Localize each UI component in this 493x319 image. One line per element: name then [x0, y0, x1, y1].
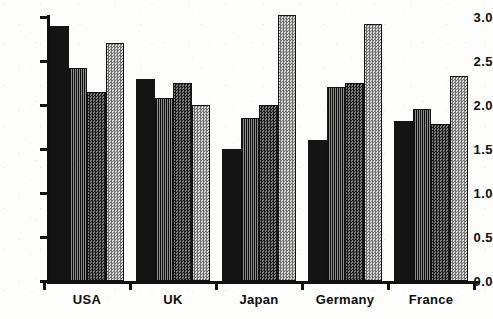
x-axis-tick [129, 281, 132, 290]
bar-usa-series-2 [69, 68, 88, 281]
bar-france-series-1 [394, 121, 413, 281]
y-axis-tick-label: 0.5 [459, 231, 493, 244]
y-axis-tick-label: 0.0 [459, 275, 493, 288]
y-axis-tick [40, 60, 49, 63]
y-axis-tick [40, 16, 49, 19]
y-axis-tick [40, 104, 49, 107]
plot-area [0, 0, 493, 319]
bar-japan-series-2 [241, 118, 260, 281]
bar-japan-series-1 [222, 149, 241, 281]
bar-uk-series-3 [173, 83, 192, 281]
bar-uk-series-4 [192, 105, 211, 281]
x-axis-group-label-usa: USA [40, 293, 134, 306]
x-axis-tick [387, 281, 390, 290]
x-axis-tick [473, 281, 476, 290]
bar-chart: 0.00.51.01.52.02.53.0 USAUKJapanGermanyF… [0, 0, 493, 319]
bar-group-uk [136, 7, 210, 281]
x-axis-group-label-japan: Japan [212, 293, 306, 306]
x-axis-group-label-germany: Germany [298, 293, 392, 306]
bar-group-usa [50, 7, 124, 281]
bar-uk-series-2 [155, 98, 174, 281]
bar-france-series-3 [431, 124, 450, 281]
bar-group-germany [308, 7, 382, 281]
bar-group-japan [222, 7, 296, 281]
y-axis-tick-label: 1.5 [459, 143, 493, 156]
bar-france-series-2 [413, 109, 432, 281]
bar-germany-series-3 [345, 83, 364, 281]
bar-uk-series-1 [136, 79, 155, 281]
y-axis-tick [40, 148, 49, 151]
bar-usa-series-3 [87, 92, 106, 281]
bar-germany-series-2 [327, 87, 346, 281]
y-axis-tick-label: 3.0 [459, 11, 493, 24]
y-axis-tick [40, 236, 49, 239]
bar-germany-series-1 [308, 140, 327, 281]
y-axis-tick [40, 192, 49, 195]
x-axis-tick [215, 281, 218, 290]
bar-germany-series-4 [364, 24, 383, 281]
x-axis-group-label-france: France [384, 293, 478, 306]
y-axis-tick-label: 2.0 [459, 99, 493, 112]
bar-usa-series-4 [106, 43, 125, 281]
bar-japan-series-3 [259, 105, 278, 281]
bar-usa-series-1 [50, 26, 69, 281]
bar-japan-series-4 [278, 15, 297, 281]
y-axis-tick-label: 2.5 [459, 55, 493, 68]
x-axis-group-label-uk: UK [126, 293, 220, 306]
x-axis-tick [301, 281, 304, 290]
bar-group-france [394, 7, 468, 281]
y-axis-tick-label: 1.0 [459, 187, 493, 200]
x-axis-tick [43, 281, 46, 290]
x-axis-line [47, 281, 479, 284]
